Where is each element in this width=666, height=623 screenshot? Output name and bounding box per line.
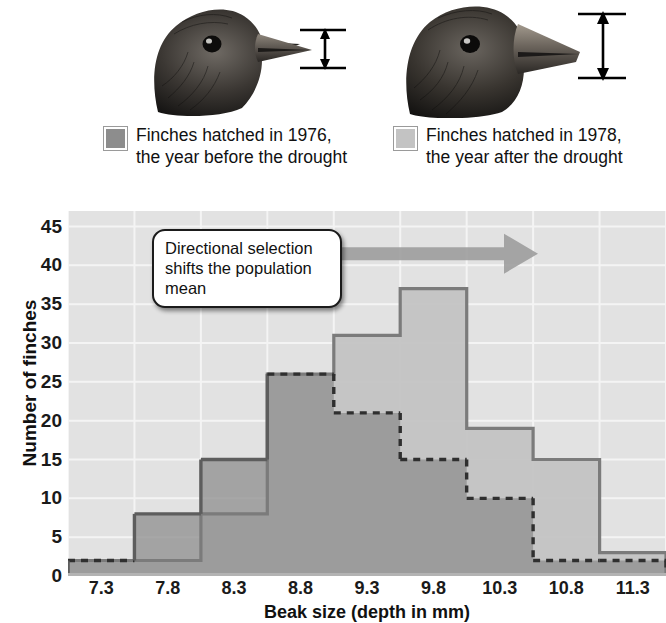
y-tick-5: 5 — [18, 526, 62, 548]
legend-swatch-1976 — [104, 127, 127, 150]
y-tick-30: 30 — [18, 332, 62, 354]
legend-label-1976-line1: Finches hatched in 1976, — [136, 125, 332, 145]
finch-illustrations — [0, 0, 666, 118]
x-tick-9.3: 9.3 — [337, 578, 397, 599]
x-tick-7.3: 7.3 — [71, 578, 131, 599]
finch-1978-illustration — [400, 0, 630, 118]
callout-box: Directional selection shifts the populat… — [152, 229, 342, 308]
legend-item-1976: Finches hatched in 1976, the year before… — [104, 124, 347, 168]
y-axis-ticks: 051015202530354045 — [10, 211, 62, 576]
x-tick-10.8: 10.8 — [536, 578, 596, 599]
legend-item-1978: Finches hatched in 1978, the year after … — [394, 124, 623, 168]
finch-1978-head-icon — [400, 0, 630, 118]
finch-1976-illustration — [150, 0, 350, 118]
y-tick-0: 0 — [18, 565, 62, 587]
x-tick-8.3: 8.3 — [204, 578, 264, 599]
y-tick-10: 10 — [18, 487, 62, 509]
legend-label-1978-line1: Finches hatched in 1978, — [426, 125, 622, 145]
callout-text: Directional selection shifts the populat… — [165, 238, 330, 298]
x-tick-7.8: 7.8 — [138, 578, 198, 599]
x-tick-10.3: 10.3 — [470, 578, 530, 599]
finch-1976-head-icon — [150, 0, 350, 118]
y-tick-45: 45 — [18, 216, 62, 238]
legend-label-1978-line2: the year after the drought — [426, 147, 623, 167]
y-tick-20: 20 — [18, 410, 62, 432]
x-tick-11.3: 11.3 — [603, 578, 663, 599]
x-axis-ticks: 7.37.88.38.89.39.810.310.811.3 — [68, 578, 666, 604]
x-tick-8.8: 8.8 — [271, 578, 331, 599]
x-tick-9.8: 9.8 — [403, 578, 463, 599]
legend-swatch-1978 — [394, 127, 417, 150]
legend-label-1976: Finches hatched in 1976, the year before… — [136, 124, 347, 168]
y-tick-35: 35 — [18, 293, 62, 315]
y-tick-15: 15 — [18, 449, 62, 471]
chart-legend: Finches hatched in 1976, the year before… — [0, 124, 666, 186]
y-tick-25: 25 — [18, 371, 62, 393]
y-tick-40: 40 — [18, 254, 62, 276]
legend-label-1978: Finches hatched in 1978, the year after … — [426, 124, 623, 168]
histogram-chart: Number of finches 051015202530354045 Dir… — [0, 196, 666, 617]
x-axis-title: Beak size (depth in mm) — [68, 602, 666, 623]
plot-area: Directional selection shifts the populat… — [68, 211, 666, 576]
legend-label-1976-line2: the year before the drought — [136, 147, 347, 167]
